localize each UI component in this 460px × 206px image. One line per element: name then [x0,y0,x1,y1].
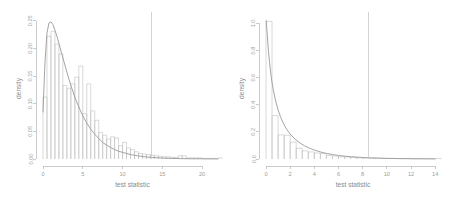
left-x-tick-label: 0 [41,171,44,177]
right-x-tick-label: 14 [432,171,438,177]
right-histogram-bar [326,155,332,159]
right-y-axis-title: density [238,77,246,99]
left-histogram-bar [51,31,55,159]
right-x-tick-label: 4 [313,171,316,177]
left-histogram-bar [79,66,83,159]
right-plot-curve [266,21,435,159]
right-x-tick-label: 10 [384,171,390,177]
left-histogram-bar [91,111,95,159]
right-histogram-bar [290,142,296,159]
left-x-tick-label: 20 [199,171,205,177]
left-y-tick-label: 0.10 [28,98,34,109]
right-histogram-bar [339,157,345,159]
right-x-tick-label: 2 [289,171,292,177]
left-density-curve [43,22,218,159]
chart-panel-right: 024681012140.00.20.40.60.81.0test statis… [230,0,460,206]
right-x-tick-label: 8 [361,171,364,177]
left-plot-curve [43,22,218,159]
right-x-tick-label: 0 [264,171,267,177]
right-histogram-bar [278,135,284,159]
chart-panel-left: 051015200.000.050.100.150.200.25test sta… [0,0,230,206]
right-plot-bars [266,21,441,159]
right-histogram-bar [357,158,363,159]
left-histogram-bar [75,77,79,159]
left-y-tick-label: 0.20 [28,43,34,54]
right-histogram-bar [284,135,290,159]
right-y-tick-label: 0.0 [251,155,257,163]
right-y-tick-label: 0.4 [251,101,257,109]
right-histogram-bar [320,154,326,159]
left-y-axis-title: density [15,77,23,99]
left-histogram-bar [99,132,103,159]
left-histogram-bar [115,138,119,159]
right-histogram-bar [272,116,278,159]
left-histogram-bar [63,85,67,159]
left-histogram-bar [87,84,91,159]
left-histogram-bar [103,135,107,159]
right-x-tick-label: 6 [337,171,340,177]
right-histogram-bar [266,21,272,159]
right-histogram-bar [302,151,308,159]
left-y-tick-label: 0.05 [28,126,34,137]
left-plot-canvas: 051015200.000.050.100.150.200.25test sta… [0,0,230,206]
left-x-tick-label: 15 [159,171,165,177]
right-histogram-bar [345,157,351,159]
left-y-tick-label: 0.15 [28,71,34,82]
left-plot-bars [43,31,222,159]
left-x-tick-label: 5 [81,171,84,177]
right-histogram-bar [296,148,302,159]
right-histogram-bar [314,153,320,159]
right-x-axis-title: test statistic [336,181,371,188]
right-y-tick-label: 0.8 [251,47,257,55]
right-y-tick-label: 1.0 [251,20,257,28]
right-histogram-bar [351,158,357,159]
right-histogram-bar [332,156,338,159]
right-density-curve [266,21,435,159]
right-plot-axes [256,23,435,169]
right-histogram-bar [308,152,314,159]
left-histogram-bar [47,36,51,159]
left-histogram-bar [218,158,222,159]
left-histogram-bar [107,139,111,159]
left-histogram-bar [83,114,87,159]
left-y-tick-label: 0.00 [28,154,34,165]
left-histogram-bar [123,142,127,159]
left-y-tick-label: 0.25 [28,15,34,26]
left-histogram-bar [67,88,71,159]
left-histogram-bar [95,120,99,159]
right-plot-canvas: 024681012140.00.20.40.60.81.0test statis… [230,0,460,206]
left-histogram-bar [55,44,59,159]
left-x-tick-label: 10 [119,171,125,177]
left-x-axis-title: test statistic [115,181,150,188]
figure-container: 051015200.000.050.100.150.200.25test sta… [0,0,460,206]
left-histogram-bar [59,54,63,159]
right-y-tick-label: 0.6 [251,74,257,82]
right-x-tick-label: 12 [408,171,414,177]
right-y-tick-label: 0.2 [251,128,257,136]
